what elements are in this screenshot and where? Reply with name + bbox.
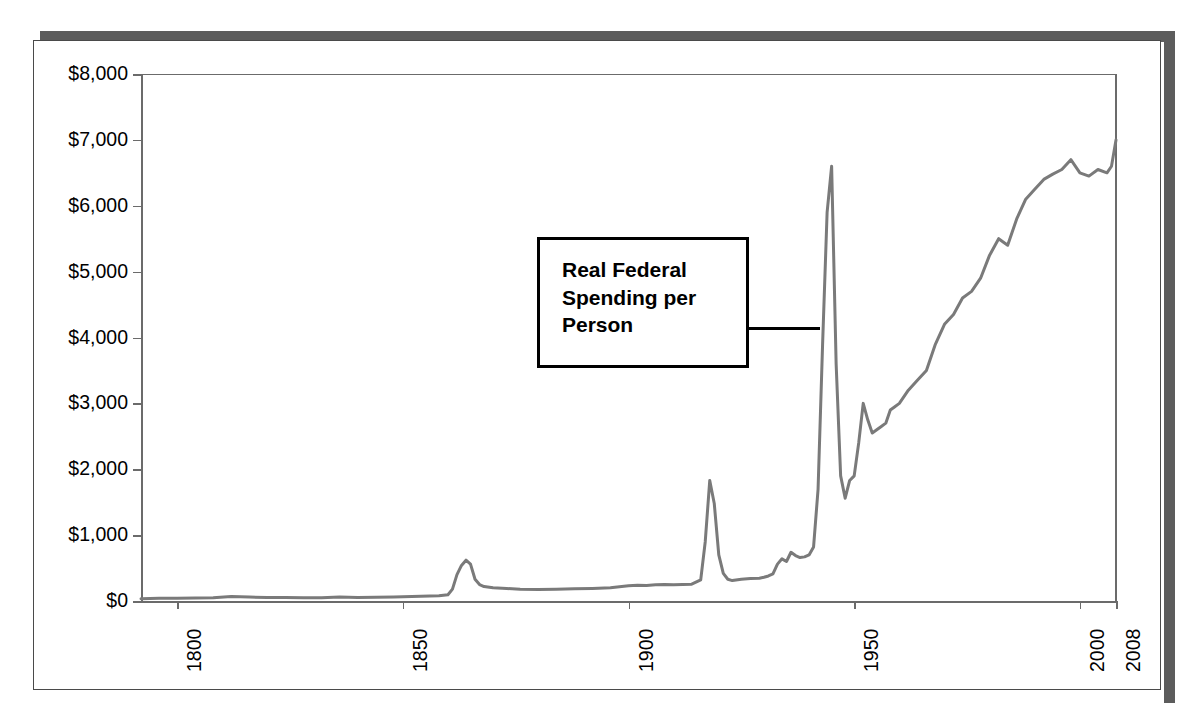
y-tick-mark xyxy=(133,74,142,76)
x-tick-mark xyxy=(1116,601,1118,609)
chart-screenshot: $0$1,000$2,000$3,000$4,000$5,000$6,000$7… xyxy=(0,0,1188,719)
x-tick-label: 1850 xyxy=(411,629,431,672)
annotation-callout-box: Real Federal Spending per Person xyxy=(537,237,749,368)
x-tick-mark xyxy=(854,601,856,609)
annotation-line-2: Spending per xyxy=(562,284,746,312)
y-tick-mark xyxy=(133,338,142,340)
y-tick-label: $8,000 xyxy=(68,64,128,84)
y-tick-label: $7,000 xyxy=(68,130,128,150)
x-tick-label: 2008 xyxy=(1124,629,1144,672)
x-tick-mark xyxy=(177,601,179,609)
annotation-line-1: Real Federal xyxy=(562,256,746,284)
y-tick-label: $4,000 xyxy=(68,328,128,348)
annotation-line-3: Person xyxy=(562,311,746,339)
annotation-leader-line xyxy=(749,327,820,330)
y-tick-mark xyxy=(133,535,142,537)
y-tick-label: $3,000 xyxy=(68,393,128,413)
x-tick-label: 2000 xyxy=(1088,629,1108,672)
y-tick-mark xyxy=(133,140,142,142)
x-tick-mark xyxy=(403,601,405,609)
y-tick-mark xyxy=(133,403,142,405)
y-tick-mark xyxy=(133,272,142,274)
y-tick-label: $0 xyxy=(106,591,128,611)
frame-shadow-right xyxy=(1164,31,1175,703)
y-axis-tick-labels: $0$1,000$2,000$3,000$4,000$5,000$6,000$7… xyxy=(0,0,128,719)
x-tick-label: 1950 xyxy=(862,629,882,672)
plot-border-right xyxy=(1115,74,1117,602)
y-tick-label: $1,000 xyxy=(68,525,128,545)
x-tick-mark xyxy=(629,601,631,609)
y-tick-label: $2,000 xyxy=(68,459,128,479)
y-tick-label: $5,000 xyxy=(68,262,128,282)
y-tick-label: $6,000 xyxy=(68,196,128,216)
y-tick-mark xyxy=(133,601,142,603)
x-tick-label: 1800 xyxy=(185,629,205,672)
x-tick-mark xyxy=(1080,601,1082,609)
y-tick-mark xyxy=(133,469,142,471)
x-tick-label: 1900 xyxy=(637,629,657,672)
y-tick-mark xyxy=(133,206,142,208)
plot-border-top xyxy=(141,74,1117,75)
